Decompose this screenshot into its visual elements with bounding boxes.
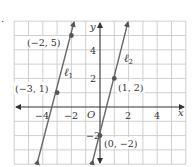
x-tick-label: −4 [35,110,49,121]
point-1-2 [112,76,117,81]
y-tick-label: 2 [90,73,96,84]
point-neg2-5 [69,33,74,38]
coordinate-plane: . x y O −4 −2 2 4 4 2 −2 [0,0,193,167]
point-0-neg2 [98,133,103,138]
point-label: (0, −2) [104,138,138,149]
point-label: (−2, 5) [27,37,61,48]
point-neg3-1 [55,90,60,95]
x-axis-label: x [178,107,184,118]
y-axis-label: y [89,21,96,32]
origin-label: O [87,109,95,120]
x-tick-label: 4 [154,110,160,121]
point-label: (−3, 1) [15,83,49,94]
x-tick-label: −2 [64,110,78,121]
x-tick-label: 2 [125,110,131,121]
y-tick-label: 4 [90,45,96,56]
problem-marker: . [1,13,4,24]
line-l2-label: ℓ2 [124,52,133,66]
point-label: (1, 2) [118,82,144,93]
